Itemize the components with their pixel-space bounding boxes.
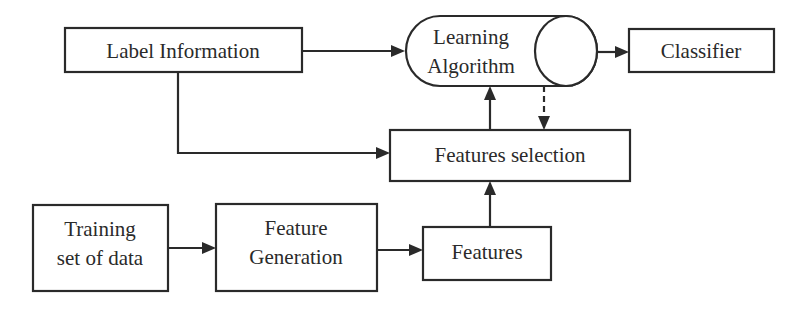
node-training-set-line1: Training (64, 217, 136, 241)
node-features-text: Features (451, 240, 522, 264)
node-classifier: Classifier (629, 29, 774, 72)
node-learning-algorithm-line1: Learning (433, 25, 509, 49)
node-label-information-text: Label Information (106, 39, 260, 63)
node-training-set: Training set of data (33, 205, 168, 291)
cylinder-end-icon (535, 16, 597, 86)
edge-training-to-generation (168, 242, 216, 254)
edge-features-to-selection (484, 181, 496, 227)
node-learning-algorithm: Learning Algorithm (406, 16, 597, 86)
ml-pipeline-diagram: Label Information Learning Algorithm Cla… (0, 0, 801, 315)
edge-generation-to-features (377, 244, 423, 256)
edge-selection-to-learning (484, 86, 496, 130)
node-learning-algorithm-line2: Algorithm (427, 54, 515, 78)
node-feature-generation-line1: Feature (265, 216, 328, 240)
node-label-information: Label Information (65, 28, 302, 72)
edge-learning-to-selection-dashed (538, 86, 550, 130)
edge-learning-to-classifier (597, 46, 629, 58)
node-training-set-line2: set of data (57, 246, 144, 270)
node-features: Features (423, 227, 551, 280)
edge-label-to-learning (302, 45, 405, 57)
node-feature-generation-line2: Generation (249, 245, 343, 269)
node-classifier-text: Classifier (661, 39, 741, 63)
edge-label-to-selection (178, 72, 390, 159)
node-feature-generation: Feature Generation (216, 204, 377, 291)
node-features-selection-text: Features selection (434, 143, 586, 167)
node-features-selection: Features selection (390, 130, 630, 181)
